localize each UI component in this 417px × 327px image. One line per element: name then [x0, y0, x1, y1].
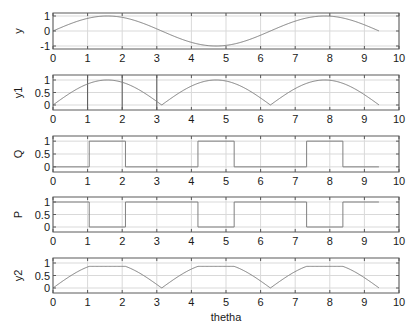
y-axis-label: y2: [12, 270, 24, 282]
x-tick-label: 1: [85, 175, 91, 187]
x-tick-label: 0: [50, 296, 56, 308]
x-tick-label: 7: [292, 296, 298, 308]
x-tick-label: 7: [292, 52, 298, 64]
x-tick-label: 0: [50, 52, 56, 64]
subplot-Q: 01234567891000.51Q: [12, 135, 405, 187]
subplot-P: 01234567891000.51P: [12, 196, 405, 247]
x-tick-label: 3: [154, 52, 160, 64]
subplot-y2: 01234567891000.51y2thetha: [12, 257, 405, 323]
y-tick-label: -1: [40, 40, 50, 52]
y-axis-label: P: [12, 211, 24, 218]
x-tick-label: 5: [223, 296, 229, 308]
x-tick-label: 2: [119, 235, 125, 247]
x-tick-label: 6: [258, 296, 264, 308]
y-tick-label: 0: [44, 161, 50, 173]
x-tick-label: 5: [223, 113, 229, 125]
x-tick-label: 6: [258, 235, 264, 247]
x-tick-label: 9: [361, 296, 367, 308]
x-tick-label: 2: [119, 175, 125, 187]
y-tick-label: 0: [44, 25, 50, 37]
x-tick-label: 10: [393, 235, 405, 247]
x-tick-label: 4: [188, 235, 194, 247]
x-tick-label: 6: [258, 113, 264, 125]
x-tick-label: 4: [188, 296, 194, 308]
x-tick-label: 6: [258, 52, 264, 64]
x-tick-label: 10: [393, 52, 405, 64]
x-tick-label: 10: [393, 175, 405, 187]
y-tick-label: 0: [44, 282, 50, 294]
y-axis-label: y1: [12, 87, 24, 99]
x-tick-label: 2: [119, 296, 125, 308]
x-tick-label: 4: [188, 52, 194, 64]
x-tick-label: 3: [154, 296, 160, 308]
x-tick-label: 8: [327, 296, 333, 308]
x-tick-label: 7: [292, 175, 298, 187]
x-tick-label: 10: [393, 296, 405, 308]
y-tick-label: 0.5: [35, 270, 50, 282]
x-axis-label: thetha: [211, 311, 242, 323]
x-tick-label: 0: [50, 175, 56, 187]
y-axis-label: Q: [12, 149, 24, 158]
x-tick-label: 8: [327, 235, 333, 247]
x-tick-label: 3: [154, 235, 160, 247]
x-tick-label: 8: [327, 113, 333, 125]
x-tick-label: 0: [50, 113, 56, 125]
x-tick-label: 1: [85, 296, 91, 308]
y-tick-label: 0.5: [35, 209, 50, 221]
x-tick-label: 5: [223, 52, 229, 64]
x-tick-label: 3: [154, 175, 160, 187]
x-tick-label: 1: [85, 52, 91, 64]
y-tick-label: 1: [44, 74, 50, 86]
y-tick-label: 1: [44, 10, 50, 22]
x-tick-label: 3: [154, 113, 160, 125]
x-tick-label: 10: [393, 113, 405, 125]
x-tick-label: 6: [258, 175, 264, 187]
x-tick-label: 2: [119, 113, 125, 125]
x-tick-label: 5: [223, 235, 229, 247]
y-tick-label: 0.5: [35, 87, 50, 99]
subplot-y1: 01234567891000.51y1: [12, 74, 405, 125]
x-tick-label: 7: [292, 113, 298, 125]
y-tick-label: 0: [44, 221, 50, 233]
y-tick-label: 0: [44, 99, 50, 111]
x-tick-label: 4: [188, 113, 194, 125]
x-tick-label: 1: [85, 235, 91, 247]
x-tick-label: 4: [188, 175, 194, 187]
y-axis-label: y: [12, 28, 24, 34]
y-tick-label: 1: [44, 135, 50, 147]
x-tick-label: 2: [119, 52, 125, 64]
figure: 012345678910-101y01234567891000.51y10123…: [0, 0, 417, 327]
x-tick-label: 1: [85, 113, 91, 125]
x-tick-label: 9: [361, 235, 367, 247]
x-tick-label: 8: [327, 52, 333, 64]
x-tick-label: 9: [361, 113, 367, 125]
y-tick-label: 1: [44, 257, 50, 269]
x-tick-label: 8: [327, 175, 333, 187]
x-tick-label: 5: [223, 175, 229, 187]
x-tick-label: 9: [361, 52, 367, 64]
x-tick-label: 7: [292, 235, 298, 247]
y-tick-label: 1: [44, 196, 50, 208]
subplot-y: 012345678910-101y: [12, 10, 405, 64]
y-tick-label: 0.5: [35, 148, 50, 160]
x-tick-label: 9: [361, 175, 367, 187]
x-tick-label: 0: [50, 235, 56, 247]
